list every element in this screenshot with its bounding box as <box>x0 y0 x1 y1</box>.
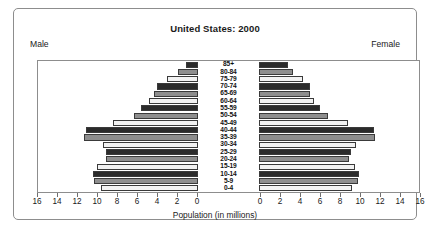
male-half <box>38 97 198 104</box>
male-bar <box>94 178 198 184</box>
female-bar <box>259 113 328 119</box>
male-half <box>38 170 198 177</box>
female-half <box>259 112 419 119</box>
female-half <box>259 156 419 163</box>
male-axis-tick-label: 4 <box>155 197 160 206</box>
male-half <box>38 127 198 134</box>
male-bar <box>106 156 198 162</box>
female-axis-tick-label: 8 <box>338 197 343 206</box>
x-axis-title: Population (in millions) <box>14 210 416 220</box>
chart-title: United States: 2000 <box>14 23 416 34</box>
male-bar <box>178 69 198 75</box>
male-axis-tick-label: 16 <box>32 197 41 206</box>
male-bar <box>149 98 198 104</box>
female-bar <box>259 178 358 184</box>
female-axis-tick-label: 14 <box>395 197 404 206</box>
axis-tick <box>380 193 381 197</box>
female-side-label: Female <box>371 39 400 49</box>
male-bar <box>186 62 198 68</box>
male-bar <box>97 164 198 170</box>
plot-area: 85+80-8475-7970-7465-6960-6455-5950-5445… <box>37 60 420 193</box>
male-half <box>38 90 198 97</box>
male-axis-tick-label: 2 <box>175 197 180 206</box>
male-bar <box>154 91 198 97</box>
female-axis-tick-label: 10 <box>355 197 364 206</box>
female-bar <box>259 120 348 126</box>
male-half <box>38 119 198 126</box>
male-half <box>38 105 198 112</box>
female-half <box>259 141 419 148</box>
female-half <box>259 185 419 192</box>
female-half <box>259 97 419 104</box>
female-half <box>259 170 419 177</box>
female-axis-tick-label: 0 <box>258 197 263 206</box>
male-bar <box>157 83 198 89</box>
axis-tick <box>77 193 78 197</box>
male-half <box>38 148 198 155</box>
male-bar <box>86 127 198 133</box>
female-half <box>259 119 419 126</box>
male-half <box>38 112 198 119</box>
female-axis-tick-label: 12 <box>375 197 384 206</box>
female-axis-tick-label: 2 <box>278 197 283 206</box>
male-half <box>38 141 198 148</box>
axis-tick <box>57 193 58 197</box>
pyramid-rows: 85+80-8475-7970-7465-6960-6455-5950-5445… <box>38 61 419 192</box>
male-bar <box>103 142 198 148</box>
axis-tick <box>137 193 138 197</box>
female-bar <box>259 105 320 111</box>
axis-tick <box>340 193 341 197</box>
axis-tick <box>400 193 401 197</box>
male-bar <box>167 76 198 82</box>
female-bar <box>259 171 359 177</box>
female-axis-tick-label: 4 <box>298 197 303 206</box>
female-bar <box>259 91 310 97</box>
female-axis-tick-label: 16 <box>415 197 424 206</box>
axis-tick <box>420 193 421 197</box>
axis-tick <box>300 193 301 197</box>
female-bar <box>259 142 356 148</box>
axis-tick <box>97 193 98 197</box>
pyramid-row: 0-4 <box>38 185 419 192</box>
axis-tick <box>157 193 158 197</box>
male-half <box>38 68 198 75</box>
female-half <box>259 127 419 134</box>
female-bar <box>259 69 293 75</box>
female-bar <box>259 149 351 155</box>
x-axis-tick-labels: 16141210864200246810121416 <box>37 197 420 209</box>
age-group-label: 0-4 <box>198 185 259 192</box>
female-bar <box>259 98 314 104</box>
axis-tick <box>320 193 321 197</box>
axis-tick <box>280 193 281 197</box>
chart-card: United States: 2000 Male Female 85+80-84… <box>13 8 417 220</box>
female-axis-tick-label: 6 <box>318 197 323 206</box>
female-half <box>259 148 419 155</box>
female-bar <box>259 76 303 82</box>
female-half <box>259 90 419 97</box>
male-half <box>38 134 198 141</box>
axis-tick <box>360 193 361 197</box>
male-half <box>38 163 198 170</box>
female-bar <box>259 83 310 89</box>
axis-tick <box>260 193 261 197</box>
female-bar <box>259 134 375 140</box>
female-bar <box>259 164 355 170</box>
axis-tick <box>177 193 178 197</box>
male-bar <box>84 134 198 140</box>
population-pyramid-screenshot: · · · United States: 2000 Male Female 85… <box>0 0 431 231</box>
male-axis-tick-label: 14 <box>52 197 61 206</box>
male-axis-tick-label: 8 <box>115 197 120 206</box>
male-side-label: Male <box>30 39 49 49</box>
female-half <box>259 76 419 83</box>
male-half <box>38 61 198 68</box>
male-bar <box>134 113 198 119</box>
clipped-top-text: · · · <box>14 0 27 2</box>
male-bar <box>101 185 198 191</box>
female-bar <box>259 127 374 133</box>
female-bar <box>259 62 288 68</box>
male-bar <box>141 105 198 111</box>
female-half <box>259 61 419 68</box>
male-bar <box>106 149 198 155</box>
male-axis-tick-label: 10 <box>92 197 101 206</box>
male-axis-tick-label: 6 <box>135 197 140 206</box>
